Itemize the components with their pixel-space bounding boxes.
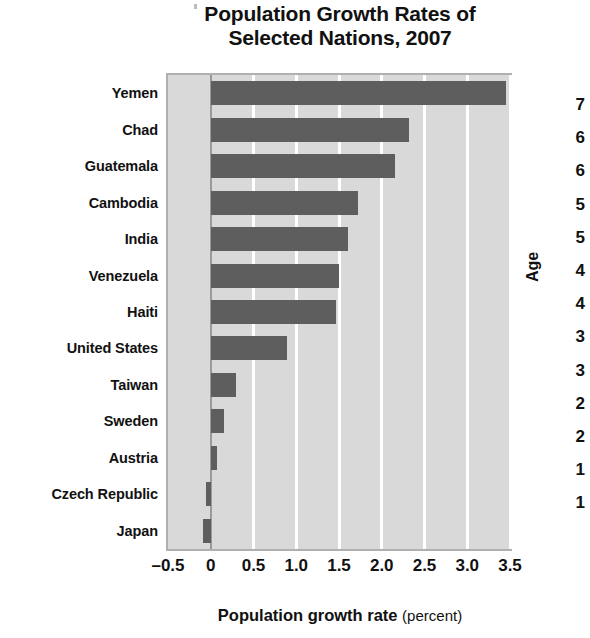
adjacent-tick-2: 6: [576, 163, 585, 179]
bar-taiwan: [211, 373, 236, 397]
x-axis-title-unit: (percent): [402, 607, 462, 624]
x-tick-0: –0.5: [151, 556, 184, 576]
bar-chad: [211, 118, 409, 142]
adjacent-tick-8: 3: [576, 363, 585, 379]
bar-venezuela: [211, 264, 339, 288]
bar-japan: [203, 519, 211, 543]
x-tick-6: 2.5: [413, 556, 437, 576]
y-label-sweden: Sweden: [0, 414, 158, 428]
bar-austria: [211, 446, 217, 470]
adjacent-tick-4: 5: [576, 230, 585, 246]
adjacent-tick-1: 6: [576, 130, 585, 146]
plot-inner: [168, 75, 510, 549]
chart-title-line-1: Population Growth Rates of: [150, 2, 530, 26]
gridline-x-4: [338, 75, 341, 549]
y-label-india: India: [0, 232, 158, 246]
bar-sweden: [211, 409, 225, 433]
y-label-japan: Japan: [0, 524, 158, 538]
y-label-chad: Chad: [0, 123, 158, 137]
bar-guatemala: [211, 154, 396, 178]
x-axis-title: Population growth rate (percent): [150, 606, 530, 625]
x-tick-4: 1.5: [327, 556, 351, 576]
y-label-haiti: Haiti: [0, 305, 158, 319]
y-label-venezuela: Venezuela: [0, 269, 158, 283]
adjacent-tick-10: 2: [576, 429, 585, 445]
chart-title-line-2: Selected Nations, 2007: [150, 26, 530, 50]
x-tick-3: 1.0: [284, 556, 308, 576]
y-label-yemen: Yemen: [0, 86, 158, 100]
y-label-guatemala: Guatemala: [0, 159, 158, 173]
x-tick-8: 3.5: [498, 556, 522, 576]
adjacent-tick-11: 1: [576, 462, 585, 478]
adjacent-tick-12: 1: [576, 495, 585, 511]
bar-yemen: [211, 81, 506, 105]
gridline-x-7: [466, 75, 469, 549]
bar-india: [211, 227, 348, 251]
y-label-czech-republic: Czech Republic: [0, 487, 158, 501]
chart-title: Population Growth Rates of Selected Nati…: [150, 2, 530, 50]
adjacent-chart-tick-labels: 7665544332211: [524, 73, 590, 543]
adjacent-tick-9: 2: [576, 396, 585, 412]
x-tick-1: 0: [206, 556, 215, 576]
x-tick-7: 3.0: [455, 556, 479, 576]
gridline-x-8: [509, 75, 512, 549]
adjacent-chart-axis-title: Age: [524, 252, 542, 282]
bar-haiti: [211, 300, 337, 324]
adjacent-tick-0: 7: [576, 97, 585, 113]
adjacent-tick-6: 4: [576, 296, 585, 312]
adjacent-tick-5: 4: [576, 263, 585, 279]
x-axis-title-main: Population growth rate: [218, 606, 398, 624]
y-label-taiwan: Taiwan: [0, 378, 158, 392]
bar-cambodia: [211, 191, 358, 215]
x-tick-2: 0.5: [242, 556, 266, 576]
x-axis-tick-labels: –0.500.51.01.52.02.53.03.5: [0, 556, 590, 582]
gridline-x-6: [423, 75, 426, 549]
adjacent-tick-7: 3: [576, 329, 585, 345]
bar-czech-republic: [206, 482, 211, 506]
bar-united-states: [211, 336, 287, 360]
y-label-united-states: United States: [0, 341, 158, 355]
gridline-x-5: [380, 75, 383, 549]
y-axis-category-labels: YemenChadGuatemalaCambodiaIndiaVenezuela…: [0, 73, 158, 551]
x-tick-5: 2.0: [370, 556, 394, 576]
y-label-cambodia: Cambodia: [0, 196, 158, 210]
plot-area: LDC: [166, 73, 512, 551]
adjacent-tick-3: 5: [576, 197, 585, 213]
y-label-austria: Austria: [0, 451, 158, 465]
